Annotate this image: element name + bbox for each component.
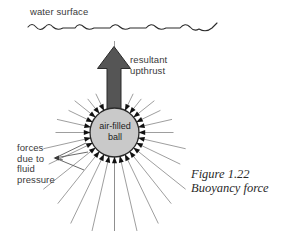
pressure-arrowhead bbox=[125, 104, 130, 111]
pressure-ray bbox=[133, 99, 142, 110]
pressure-arrowhead bbox=[89, 111, 96, 117]
pressure-arrowhead bbox=[93, 107, 99, 114]
air-filled-ball-label: air-filled ball bbox=[89, 121, 141, 142]
resultant-upthrust-label: resultant upthrust bbox=[130, 55, 167, 76]
figure-caption: Figure 1.22 Buoyancy force bbox=[191, 167, 269, 195]
pressure-ray bbox=[143, 139, 186, 149]
pressure-ray bbox=[57, 119, 86, 126]
pressure-ray bbox=[143, 119, 172, 126]
pressure-arrowhead bbox=[133, 111, 140, 117]
pressure-ray bbox=[75, 101, 92, 115]
water-surface-label: water surface bbox=[30, 7, 88, 18]
pressure-ray bbox=[127, 94, 133, 107]
pressure-ray bbox=[96, 94, 102, 107]
pressure-arrowhead bbox=[89, 147, 96, 153]
pressure-arrowhead bbox=[93, 151, 99, 158]
forces-label-pointer-lines bbox=[54, 143, 89, 170]
pressure-ray bbox=[141, 110, 161, 120]
pressure-ray bbox=[121, 161, 137, 231]
pressure-arrowhead bbox=[125, 154, 130, 161]
pressure-ray bbox=[137, 101, 154, 115]
pressure-arrowhead bbox=[86, 143, 93, 148]
fluid-pressure-forces-label: forces due to fluid pressure bbox=[17, 143, 55, 185]
pressure-arrowhead bbox=[133, 147, 140, 153]
figure-canvas bbox=[0, 0, 295, 231]
pressure-arrowhead bbox=[99, 104, 104, 111]
pressure-ray bbox=[69, 110, 89, 120]
pressure-ray bbox=[92, 161, 108, 231]
pressure-arrowhead bbox=[129, 151, 135, 158]
buoyancy-force-figure: water surface resultant upthrust forces … bbox=[0, 0, 295, 231]
pressure-arrowhead bbox=[136, 143, 143, 148]
resultant-upthrust-arrow bbox=[98, 47, 131, 114]
pressure-arrowhead bbox=[99, 154, 104, 161]
pressure-ray bbox=[141, 145, 181, 164]
pressure-ray bbox=[88, 99, 97, 110]
water-surface-line bbox=[28, 23, 217, 31]
pressure-arrowhead bbox=[129, 107, 135, 114]
